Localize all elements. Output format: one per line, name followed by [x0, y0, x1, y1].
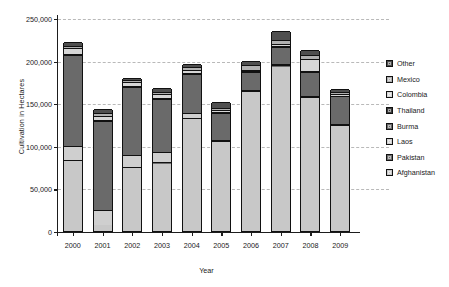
bar-group[interactable]: 2001 — [93, 19, 113, 232]
legend-swatch-icon — [386, 123, 393, 130]
bar-segment-colombia[interactable] — [64, 48, 82, 54]
bar-segment-other[interactable] — [242, 61, 260, 66]
opium-cultivation-stacked-bar-chart: Cultivation in Hectares 050,000100,00015… — [0, 0, 449, 287]
stacked-bar[interactable] — [182, 65, 202, 232]
bar-segment-burma[interactable] — [301, 72, 319, 96]
bar-segment-other[interactable] — [64, 42, 82, 46]
bar-segment-afghanistan[interactable] — [242, 92, 260, 231]
bar-segment-burma[interactable] — [212, 113, 230, 140]
bar-segment-other[interactable] — [153, 88, 171, 92]
bar-segment-laos[interactable] — [242, 90, 260, 91]
bar-group[interactable]: 2006 — [241, 19, 261, 232]
bar-group[interactable]: 2000 — [63, 19, 83, 232]
bar-segment-mexico[interactable] — [94, 113, 112, 116]
stacked-bar[interactable] — [271, 32, 291, 232]
bar-segment-laos[interactable] — [153, 152, 171, 162]
bar-segment-other[interactable] — [94, 109, 112, 113]
bar-segment-burma[interactable] — [242, 72, 260, 90]
bar-segment-afghanistan[interactable] — [153, 164, 171, 231]
bar-segment-colombia[interactable] — [94, 116, 112, 120]
stacked-bar[interactable] — [330, 90, 350, 232]
bar-segment-mexico[interactable] — [153, 92, 171, 95]
bar-segment-colombia[interactable] — [183, 70, 201, 73]
bar-segment-other[interactable] — [212, 102, 230, 108]
bar-segment-laos[interactable] — [331, 124, 349, 125]
bar-segment-mexico[interactable] — [64, 46, 82, 48]
stacked-bar[interactable] — [241, 62, 261, 232]
bar-segment-mexico[interactable] — [212, 108, 230, 110]
bar-segment-burma[interactable] — [123, 87, 141, 155]
bar-segment-pakistan[interactable] — [183, 118, 201, 119]
bar-segment-burma[interactable] — [331, 96, 349, 123]
legend-item-pakistan[interactable]: Pakistan — [386, 150, 448, 166]
legend-item-afghanistan[interactable]: Afghanistan — [386, 165, 448, 181]
bar-segment-mexico[interactable] — [123, 80, 141, 82]
bar-segment-laos[interactable] — [123, 155, 141, 167]
bar-segment-burma[interactable] — [183, 74, 201, 112]
bar-segment-pakistan[interactable] — [242, 91, 260, 92]
bar-segment-laos[interactable] — [94, 210, 112, 224]
bar-segment-colombia[interactable] — [272, 44, 290, 45]
bar-segment-colombia[interactable] — [123, 82, 141, 86]
stacked-bar[interactable] — [93, 110, 113, 232]
bar-segment-laos[interactable] — [64, 146, 82, 160]
bar-segment-burma[interactable] — [272, 47, 290, 65]
legend-item-mexico[interactable]: Mexico — [386, 72, 448, 88]
bar-segment-afghanistan[interactable] — [123, 168, 141, 231]
bar-segment-pakistan[interactable] — [301, 97, 319, 98]
bar-group[interactable]: 2005 — [211, 19, 231, 232]
stacked-bar[interactable] — [122, 79, 142, 232]
legend-item-laos[interactable]: Laos — [386, 134, 448, 150]
bar-group[interactable]: 2009 — [330, 19, 350, 232]
bar-segment-thailand[interactable] — [301, 71, 319, 72]
stacked-bar[interactable] — [211, 103, 231, 232]
bar-segment-pakistan[interactable] — [153, 162, 171, 164]
stacked-bar[interactable] — [152, 89, 172, 232]
bar-group[interactable]: 2003 — [152, 19, 172, 232]
bar-segment-colombia[interactable] — [153, 94, 171, 98]
bar-segment-colombia[interactable] — [301, 59, 319, 71]
bar-segment-mexico[interactable] — [272, 40, 290, 44]
bar-segment-burma[interactable] — [64, 55, 82, 146]
bar-segment-afghanistan[interactable] — [272, 67, 290, 231]
bar-segment-mexico[interactable] — [301, 55, 319, 59]
bar-group[interactable]: 2008 — [300, 19, 320, 232]
legend-item-burma[interactable]: Burma — [386, 118, 448, 134]
bar-group[interactable]: 2004 — [182, 19, 202, 232]
bar-segment-afghanistan[interactable] — [212, 142, 230, 231]
legend-item-thailand[interactable]: Thailand — [386, 103, 448, 119]
bar-segment-other[interactable] — [272, 31, 290, 40]
bar-segment-colombia[interactable] — [242, 70, 260, 72]
bar-segment-other[interactable] — [183, 64, 201, 67]
bar-segment-pakistan[interactable] — [212, 141, 230, 142]
bar-segment-laos[interactable] — [272, 64, 290, 65]
bar-segment-mexico[interactable] — [183, 67, 201, 70]
bar-segment-burma[interactable] — [153, 99, 171, 152]
legend-item-other[interactable]: Other — [386, 56, 448, 72]
bar-segment-thailand[interactable] — [153, 98, 171, 99]
bar-segment-afghanistan[interactable] — [331, 126, 349, 231]
bar-segment-afghanistan[interactable] — [183, 119, 201, 231]
bar-segment-colombia[interactable] — [212, 110, 230, 112]
bar-group[interactable]: 2002 — [122, 19, 142, 232]
bar-segment-other[interactable] — [331, 89, 349, 92]
legend-item-colombia[interactable]: Colombia — [386, 87, 448, 103]
bar-segment-thailand[interactable] — [242, 71, 260, 72]
bar-segment-laos[interactable] — [183, 113, 201, 119]
bar-segment-mexico[interactable] — [242, 65, 260, 69]
stacked-bar[interactable] — [300, 51, 320, 232]
bar-segment-colombia[interactable] — [331, 94, 349, 95]
bar-segment-other[interactable] — [301, 50, 319, 55]
bar-segment-laos[interactable] — [212, 140, 230, 141]
bar-segment-afghanistan[interactable] — [64, 161, 82, 231]
bar-group[interactable]: 2007 — [271, 19, 291, 232]
bar-segment-pakistan[interactable] — [272, 65, 290, 66]
bar-segment-other[interactable] — [123, 78, 141, 81]
bar-segment-afghanistan[interactable] — [94, 225, 112, 231]
bar-segment-pakistan[interactable] — [331, 125, 349, 126]
legend-swatch-icon — [386, 91, 393, 98]
bar-segment-burma[interactable] — [94, 121, 112, 210]
stacked-bar[interactable] — [63, 43, 83, 232]
bar-segment-mexico[interactable] — [331, 92, 349, 94]
bar-segment-afghanistan[interactable] — [301, 98, 319, 231]
